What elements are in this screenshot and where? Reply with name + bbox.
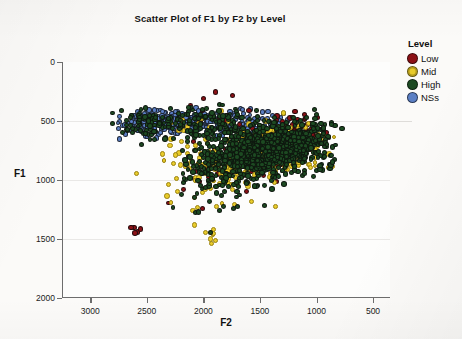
data-point-high bbox=[222, 158, 228, 164]
data-point-high bbox=[292, 119, 297, 124]
data-point-high bbox=[265, 144, 271, 150]
data-point-high bbox=[311, 174, 316, 179]
data-point-high bbox=[330, 159, 336, 165]
legend-item-nss[interactable]: NSs bbox=[407, 91, 441, 104]
legend-item-mid[interactable]: Mid bbox=[407, 65, 441, 78]
data-point-high bbox=[309, 157, 314, 162]
data-point-high bbox=[139, 107, 144, 112]
data-point-high bbox=[251, 177, 256, 182]
data-point-high bbox=[259, 162, 265, 168]
data-point-high bbox=[244, 181, 249, 186]
data-point-high bbox=[311, 126, 317, 132]
data-point-high bbox=[130, 130, 135, 135]
data-point-high bbox=[329, 122, 334, 127]
data-point-mid bbox=[171, 161, 176, 166]
data-point-high bbox=[308, 145, 313, 150]
x-axis-label: F2 bbox=[62, 317, 390, 328]
chart-title: Scatter Plot of F1 by F2 by Level bbox=[0, 13, 420, 24]
data-point-mid bbox=[162, 158, 167, 163]
data-point-high bbox=[281, 181, 287, 187]
data-point-mid bbox=[192, 222, 198, 228]
legend-title: Level bbox=[407, 38, 441, 49]
data-point-high bbox=[139, 142, 144, 147]
data-point-high bbox=[273, 175, 278, 180]
data-point-high bbox=[316, 155, 321, 160]
data-point-low bbox=[244, 189, 249, 194]
data-point-high bbox=[220, 183, 225, 188]
x-tick-label: 2000 bbox=[194, 306, 213, 316]
legend-item-low[interactable]: Low bbox=[407, 52, 441, 65]
data-point-high bbox=[173, 121, 178, 126]
data-point-high bbox=[204, 131, 209, 136]
data-point-mid bbox=[134, 171, 139, 176]
data-point-high bbox=[190, 159, 196, 165]
data-point-high bbox=[275, 155, 280, 160]
legend-item-high[interactable]: High bbox=[407, 78, 441, 91]
legend-item-label: Mid bbox=[421, 67, 436, 77]
data-point-high bbox=[153, 115, 158, 120]
data-point-high bbox=[213, 166, 218, 171]
data-point-high bbox=[262, 203, 267, 208]
data-point-high bbox=[339, 126, 344, 131]
data-point-high bbox=[143, 105, 148, 110]
data-point-high bbox=[110, 111, 115, 116]
data-point-mid bbox=[173, 152, 179, 158]
data-point-mid bbox=[179, 139, 184, 144]
x-tick-label: 1500 bbox=[250, 306, 269, 316]
legend-item-label: NSs bbox=[421, 93, 439, 103]
data-point-high bbox=[254, 128, 259, 133]
data-point-mid bbox=[166, 182, 171, 187]
data-point-high bbox=[157, 121, 162, 126]
data-point-high bbox=[207, 199, 212, 204]
x-tick-label: 500 bbox=[366, 306, 380, 316]
data-point-high bbox=[146, 118, 151, 123]
data-point-high bbox=[196, 209, 202, 215]
y-tick-mark-2000 bbox=[57, 298, 62, 299]
y-tick-label: 1500 bbox=[15, 234, 55, 244]
data-point-high bbox=[317, 167, 323, 173]
data-point-high bbox=[304, 115, 309, 120]
x-tick-label: 1000 bbox=[307, 306, 326, 316]
data-point-high bbox=[281, 137, 286, 142]
legend-marker-icon bbox=[407, 66, 418, 77]
data-point-high bbox=[302, 171, 307, 176]
data-point-high bbox=[198, 126, 203, 131]
legend-items: LowMidHighNSs bbox=[407, 52, 441, 104]
data-point-high bbox=[220, 103, 225, 108]
data-point-high bbox=[222, 137, 227, 142]
data-point-high bbox=[192, 195, 197, 200]
data-point-high bbox=[230, 169, 235, 174]
y-tick-mark-1000 bbox=[57, 180, 62, 181]
data-point-low bbox=[201, 96, 206, 101]
data-point-high bbox=[199, 145, 204, 150]
data-point-mid bbox=[308, 165, 313, 170]
data-point-high bbox=[245, 129, 250, 134]
x-tick-mark-1000 bbox=[317, 298, 318, 303]
data-point-high bbox=[278, 129, 283, 134]
data-point-high bbox=[206, 135, 212, 141]
x-tick-mark-3000 bbox=[90, 298, 91, 303]
data-point-high bbox=[110, 121, 115, 126]
data-point-high bbox=[186, 105, 191, 110]
data-point-high bbox=[171, 205, 176, 210]
x-tick-mark-500 bbox=[373, 298, 374, 303]
data-point-low bbox=[138, 226, 144, 232]
data-point-high bbox=[299, 122, 304, 127]
data-point-high bbox=[217, 208, 222, 213]
data-point-high bbox=[257, 123, 262, 128]
data-point-high bbox=[138, 128, 143, 133]
data-point-high bbox=[254, 108, 259, 113]
data-point-high bbox=[202, 166, 207, 171]
data-point-high bbox=[256, 139, 261, 144]
data-point-low bbox=[213, 89, 218, 94]
y-tick-mark-1500 bbox=[57, 239, 62, 240]
legend-item-label: Low bbox=[421, 54, 438, 64]
legend: Level LowMidHighNSs bbox=[407, 38, 441, 104]
data-point-high bbox=[252, 183, 257, 188]
data-point-high bbox=[222, 189, 227, 194]
data-point-high bbox=[256, 174, 261, 179]
data-point-nss bbox=[117, 136, 123, 142]
data-points-layer bbox=[63, 62, 390, 297]
data-point-mid bbox=[160, 151, 166, 157]
y-tick-mark-0 bbox=[57, 62, 62, 63]
